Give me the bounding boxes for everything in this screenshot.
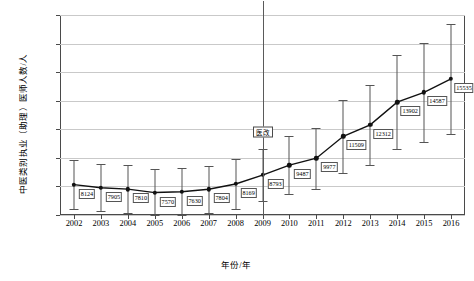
data-point-label: 9487	[294, 169, 310, 179]
annotation-label: 医改	[253, 127, 273, 138]
plot-area: 6 0008 00010 00012 00014 00016 00018 000…	[60, 15, 465, 215]
data-point-label: 9977	[321, 162, 337, 172]
data-point-label: 7810	[133, 193, 149, 203]
y-axis-title: 中医类别执业（助理）医师人数/人	[16, 44, 28, 204]
y-tick-mark	[56, 215, 60, 216]
data-point-label: 11509	[347, 140, 366, 150]
data-point-label: 8169	[240, 188, 256, 198]
error-bar-cap	[150, 215, 159, 216]
data-point-label: 14587	[427, 96, 446, 106]
data-point-label: 12312	[373, 129, 392, 139]
data-point-label: 7630	[187, 196, 203, 206]
data-point-label: 13902	[400, 106, 419, 116]
x-tick-label: 2016	[434, 219, 468, 228]
data-point-label: 15535	[454, 83, 473, 93]
data-point-label: 8124	[79, 189, 95, 199]
data-point-label: 7905	[106, 192, 122, 202]
error-bar-cap	[177, 215, 186, 216]
data-point-label: 7570	[160, 197, 176, 207]
reference-line-2009	[263, 1, 264, 215]
x-axis-title: 年份/年	[0, 258, 472, 270]
data-point-label: 8793	[267, 179, 283, 189]
data-point-label: 7804	[213, 193, 229, 203]
